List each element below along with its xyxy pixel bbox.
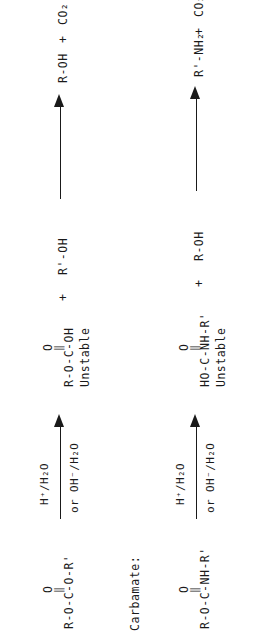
intermediate-caption-unstable: Unstable [78,328,92,387]
arrow-head-icon [54,414,64,427]
arrow-shaft [196,95,197,191]
carbonyl-oxygen-label: O [42,328,54,387]
product-label-secondary: CO₂ [192,0,206,17]
product-label-secondary: CO₂ [56,3,70,25]
coproduct-label: R-OH [192,231,206,261]
intermediate-structure-carbonate: O ‖ R-O-C-OH [42,328,77,387]
reaction-row-carbamate: O ‖ R-O-C-NH-R' H⁺/H₂O or OH⁻/H₂O O ‖ HO… [140,0,258,639]
arrow-shaft [60,103,61,199]
intermediate-caption-unstable: Unstable [214,328,228,387]
intermediate-structure-carbamate: O ‖ HO-C-NH-R' [178,313,213,387]
plus-sign-products: + [56,36,70,43]
reaction-arrow-carbonate: H⁺/H₂O or OH⁻/H₂O [36,411,96,519]
plus-sign-products: + [192,28,206,35]
arrow-condition-base: or OH⁻/H₂O [68,443,81,513]
backbone-label: HO-C-NH-R' [199,313,213,387]
product-label-primary: R'-NH₂ [192,32,206,77]
reactant-structure-carbonate: O ‖ R-O-C-O-R' [42,555,77,629]
arrow-condition-acid: H⁺/H₂O [38,463,51,505]
plus-sign-intermediate: + [56,294,70,301]
arrow-condition-acid: H⁺/H₂O [174,463,187,505]
arrow-shaft [60,423,61,519]
backbone-label: R-O-C-OH [63,328,77,387]
arrow-head-icon [190,414,200,427]
reaction-arrow-carbonate-second [36,91,96,199]
product-label-primary: R-OH [56,53,70,83]
arrow-head-icon [54,94,64,107]
plus-sign-intermediate: + [192,280,206,287]
reaction-arrow-carbamate: H⁺/H₂O or OH⁻/H₂O [172,411,232,519]
reaction-row-carbonate: O ‖ R-O-C-O-R' H⁺/H₂O or OH⁻/H₂O O ‖ R-O… [4,0,122,639]
coproduct-label: R'-OH [56,238,70,275]
arrow-shaft [196,423,197,519]
reactant-structure-carbamate: O ‖ R-O-C-NH-R' [178,547,213,629]
arrow-condition-base: or OH⁻/H₂O [204,443,217,513]
backbone-label: R-O-C-O-R' [63,555,77,629]
reaction-scheme-figure: O ‖ R-O-C-O-R' H⁺/H₂O or OH⁻/H₂O O ‖ R-O… [0,0,270,639]
arrow-head-icon [190,86,200,99]
reaction-arrow-carbamate-second [172,83,232,191]
backbone-label: R-O-C-NH-R' [199,547,213,629]
